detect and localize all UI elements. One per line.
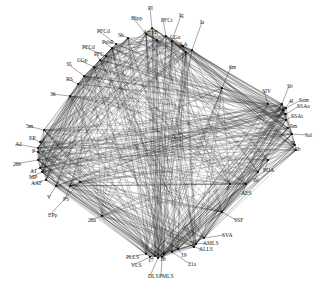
- network-node: [221, 87, 223, 89]
- node-label: 20a: [88, 217, 97, 223]
- network-node: [83, 75, 85, 77]
- node-label: RS: [66, 76, 73, 82]
- node-label: 17: [148, 257, 154, 263]
- node-label: PS: [63, 196, 69, 202]
- node-label: DLS: [148, 273, 159, 279]
- network-node: [177, 248, 179, 250]
- network-node: [193, 246, 195, 248]
- node-label: SSAi: [291, 113, 303, 119]
- network-node: [37, 159, 39, 161]
- network-node: [245, 183, 247, 185]
- node-label: AAF: [31, 180, 42, 186]
- node-label: VLS: [131, 262, 142, 268]
- node-label: 6m: [229, 64, 237, 70]
- network-node: [267, 159, 269, 161]
- network-node: [69, 95, 71, 97]
- connection-edge: [42, 172, 150, 257]
- connection-edge: [222, 128, 288, 212]
- node-label: SSAo: [297, 103, 310, 109]
- connection-edge: [56, 186, 222, 212]
- node-label: EPp: [48, 212, 58, 218]
- node-label: 35: [66, 61, 72, 67]
- network-node: [285, 113, 287, 115]
- network-node: [257, 171, 259, 173]
- node-label: 21a: [188, 261, 197, 267]
- network-node: [69, 185, 71, 187]
- network-node: [285, 107, 287, 109]
- node-label: PFCd: [82, 44, 95, 50]
- label-leader-line: [192, 22, 202, 50]
- node-label: SSF: [234, 217, 243, 223]
- network-node: [145, 253, 147, 255]
- network-node: [285, 119, 287, 121]
- connection-edge: [186, 52, 222, 88]
- network-diagram: PIHippPFCrIgAmyBIaCGaLASbPFCdPsbRPFCdPFC…: [0, 0, 327, 290]
- node-label: P: [32, 148, 35, 154]
- network-node: [77, 83, 79, 85]
- node-label: A2: [15, 141, 22, 147]
- connection-edge: [70, 186, 178, 249]
- node-label: AES: [241, 190, 252, 196]
- node-label: PFCr: [161, 17, 173, 23]
- network-node: [171, 251, 173, 253]
- network-node: [171, 40, 173, 42]
- network-node: [163, 253, 165, 255]
- network-node: [157, 257, 159, 259]
- network-node: [191, 49, 193, 51]
- node-label: 5m: [290, 123, 298, 129]
- node-label: 4l: [289, 98, 294, 104]
- node-label: Ia: [200, 19, 205, 25]
- network-node: [37, 147, 39, 149]
- node-label: 19: [181, 252, 187, 258]
- network-node: [99, 59, 101, 61]
- node-label: Ial: [253, 177, 259, 183]
- node-label: PFCd: [97, 28, 110, 34]
- node-label: PI: [148, 5, 153, 11]
- node-label: Ig: [179, 12, 184, 18]
- node-label: 20b: [13, 161, 22, 167]
- network-node: [55, 185, 57, 187]
- network-node: [37, 151, 39, 153]
- node-label: 18: [160, 256, 166, 262]
- node-label: PMLS: [159, 273, 174, 279]
- node-label: AmyB: [143, 29, 158, 35]
- node-label: SIV: [262, 88, 271, 94]
- network-node: [93, 66, 95, 68]
- node-label: PsbR: [102, 39, 114, 45]
- node-label: V: [47, 194, 51, 200]
- network-node: [115, 43, 117, 45]
- network-node: [79, 181, 81, 183]
- network-node: [282, 109, 284, 111]
- node-label: SVA: [222, 232, 232, 238]
- network-node: [45, 179, 47, 181]
- node-label: LA: [180, 41, 187, 47]
- network-node: [281, 103, 283, 105]
- network-node: [43, 129, 45, 131]
- network-node: [156, 39, 158, 41]
- connection-edge: [44, 38, 128, 130]
- network-node: [39, 167, 41, 169]
- network-node: [127, 37, 129, 39]
- network-node: [105, 55, 107, 57]
- node-label: CGp: [77, 57, 88, 63]
- network-node: [101, 215, 103, 217]
- node-label: 5b: [295, 146, 301, 152]
- network-node: [267, 103, 269, 105]
- network-node: [221, 211, 223, 213]
- node-label: Sb: [287, 83, 293, 89]
- network-node: [291, 133, 293, 135]
- label-leader-line: [204, 235, 224, 238]
- node-label: CGa: [170, 34, 181, 40]
- node-label: Sal: [305, 132, 313, 138]
- network-node: [287, 127, 289, 129]
- node-label: EP: [29, 135, 36, 141]
- network-node: [154, 255, 156, 257]
- node-label: AMLS: [203, 240, 219, 246]
- node-label: Sb: [118, 32, 124, 38]
- connection-edge: [178, 150, 296, 249]
- node-label: ALLS: [199, 246, 213, 252]
- node-label: 5m: [26, 123, 34, 129]
- node-label: POA: [263, 167, 274, 173]
- node-label: PLLS: [126, 254, 139, 260]
- network-node: [185, 51, 187, 53]
